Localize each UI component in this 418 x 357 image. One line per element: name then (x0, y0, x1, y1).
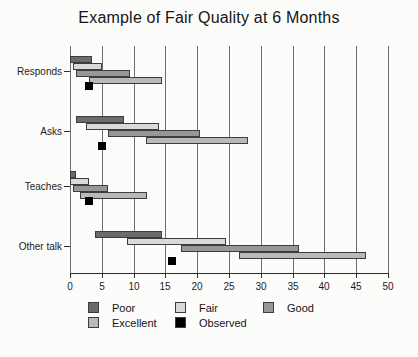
x-tick-label: 45 (350, 281, 361, 292)
x-tick-label: 25 (223, 281, 234, 292)
gridline (229, 46, 230, 273)
category-label: Other talk (0, 241, 62, 252)
x-tick-label: 0 (67, 281, 73, 292)
gridline (70, 46, 71, 273)
range-bar-good (76, 70, 130, 77)
x-tick-label: 15 (159, 281, 170, 292)
observed-marker (85, 197, 93, 205)
range-bar-good (181, 245, 299, 252)
x-tick-label: 10 (128, 281, 139, 292)
legend-item-excellent: Excellent (88, 316, 157, 329)
range-bar-poor (70, 171, 76, 178)
legend-swatch-poor (88, 302, 99, 313)
y-axis-tick (64, 186, 70, 187)
legend-swatch-excellent (88, 317, 99, 328)
observed-marker (168, 257, 176, 265)
legend-label-excellent: Excellent (112, 317, 157, 329)
range-bar-good (108, 130, 200, 137)
legend-item-good: Good (263, 301, 314, 314)
x-tick-label: 30 (255, 281, 266, 292)
observed-marker (85, 82, 93, 90)
legend-label-good: Good (287, 302, 314, 314)
range-bar-excellent (146, 137, 248, 144)
range-bar-poor (76, 116, 124, 123)
range-bar-fair (127, 238, 226, 245)
legend-label-observed: Observed (199, 317, 247, 329)
legend-label-poor: Poor (112, 302, 135, 314)
legend-swatch-good (263, 302, 274, 313)
legend-swatch-observed (175, 317, 186, 328)
gridline (388, 46, 389, 273)
legend-label-fair: Fair (199, 302, 218, 314)
range-bar-poor (95, 231, 162, 238)
range-bar-poor (70, 56, 92, 63)
x-axis-line (70, 273, 389, 274)
category-label: Teaches (0, 181, 62, 192)
legend-item-poor: Poor (88, 301, 135, 314)
range-bar-good (73, 185, 108, 192)
range-bar-fair (86, 123, 159, 130)
y-axis-tick (64, 131, 70, 132)
legend-item-fair: Fair (175, 301, 218, 314)
legend-swatch-fair (175, 302, 186, 313)
x-tick-label: 50 (382, 281, 393, 292)
gridline (356, 46, 357, 273)
range-bar-fair (73, 63, 102, 70)
gridline (261, 46, 262, 273)
gridline (324, 46, 325, 273)
legend-item-observed: Observed (175, 316, 247, 329)
range-bar-excellent (239, 252, 366, 259)
y-axis-tick (64, 71, 70, 72)
range-bar-fair (70, 178, 89, 185)
x-tick-label: 20 (191, 281, 202, 292)
category-label: Responds (0, 66, 62, 77)
x-tick-label: 35 (287, 281, 298, 292)
range-bar-excellent (89, 77, 162, 84)
gridline (293, 46, 294, 273)
x-tick-label: 40 (318, 281, 329, 292)
x-tick-label: 5 (99, 281, 105, 292)
chart-window: Example of Fair Quality at 6 Months 0510… (0, 0, 418, 357)
category-label: Asks (0, 126, 62, 137)
observed-marker (98, 142, 106, 150)
y-axis-tick (64, 246, 70, 247)
